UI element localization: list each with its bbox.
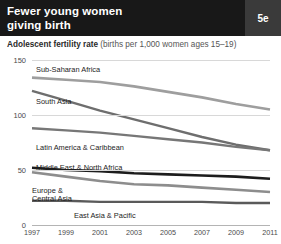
- x-tick-2011: 2011: [262, 228, 277, 237]
- x-tick-2007: 2007: [194, 228, 210, 237]
- x-tick-1997: 1997: [24, 228, 40, 237]
- page-title: Fewer young women giving birth: [0, 4, 122, 32]
- x-tick-2001: 2001: [92, 228, 108, 237]
- series-label-3: Middle East & North Africa: [36, 164, 122, 172]
- series-label-2: Latin America & Caribbean: [36, 144, 124, 152]
- x-tick-2003: 2003: [126, 228, 142, 237]
- chart-subtitle-rest: (births per 1,000 women ages 15–19): [98, 40, 236, 49]
- gridline-0: [32, 225, 270, 226]
- y-tick-50: 50: [18, 166, 26, 175]
- chart-area: 050100150 Sub-Saharan AfricaSouth AsiaLa…: [0, 54, 281, 244]
- status-badge: 5e: [245, 0, 281, 36]
- x-tick-2009: 2009: [228, 228, 244, 237]
- y-axis-labels: 050100150: [0, 60, 30, 225]
- series-label-0: Sub-Saharan Africa: [36, 66, 100, 74]
- x-tick-1999: 1999: [58, 228, 74, 237]
- series-label-1: South Asia: [36, 98, 71, 106]
- chart-subtitle: Adolescent fertility rate (births per 1,…: [7, 40, 277, 49]
- figure-header: Fewer young women giving birth 5e: [0, 0, 281, 36]
- y-tick-150: 150: [13, 56, 26, 65]
- y-tick-100: 100: [13, 111, 26, 120]
- chart-figure: Fewer young women giving birth 5e Adoles…: [0, 0, 281, 244]
- x-tick-2005: 2005: [160, 228, 176, 237]
- chart-subtitle-bold: Adolescent fertility rate: [7, 40, 98, 49]
- x-axis-labels: 19971999200120032005200720092011: [32, 228, 270, 242]
- gridline-100: [32, 115, 270, 116]
- gridline-150: [32, 60, 270, 61]
- plot-area: Sub-Saharan AfricaSouth AsiaLatin Americ…: [32, 60, 270, 225]
- series-label-4: Europe & Central Asia: [32, 187, 72, 204]
- series-label-5: East Asia & Pacific: [74, 212, 136, 220]
- badge-label: 5e: [257, 13, 268, 24]
